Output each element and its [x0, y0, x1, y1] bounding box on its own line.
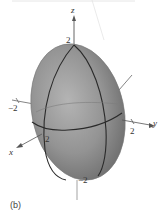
x-axis-label: x	[9, 148, 13, 157]
figure-caption: (b)	[10, 200, 21, 210]
z-top-tick-label: 2	[66, 36, 71, 45]
neg-x-axis	[119, 75, 132, 90]
y-tick-label: 2	[130, 127, 135, 136]
y-axis	[122, 120, 150, 125]
x-axis-arrow-icon	[16, 143, 23, 148]
z-axis-arrow-icon	[72, 15, 76, 21]
z-axis-label: z	[71, 6, 75, 15]
y-axis-label: y	[153, 119, 157, 128]
faint-guide-line	[92, 0, 104, 40]
neg-y-tick-label: −2	[8, 104, 18, 113]
x-tick-label: 2	[45, 135, 50, 144]
z-bottom-tick-label: −2	[78, 176, 88, 185]
